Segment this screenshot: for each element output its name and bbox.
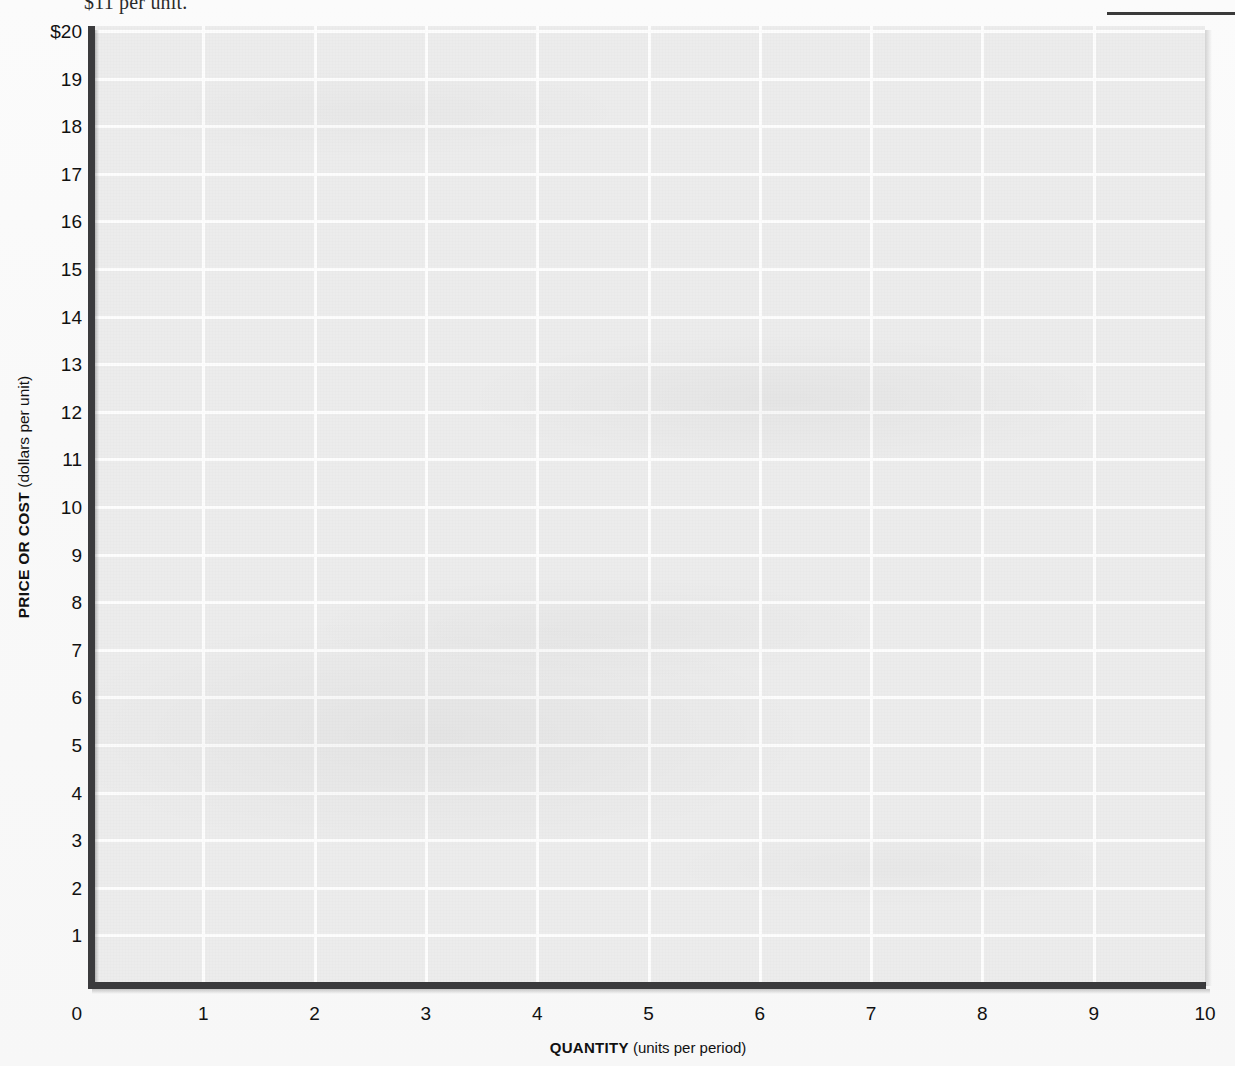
x-tick-label: 8: [952, 1004, 1012, 1023]
x-axis-title-light: (units per period): [633, 1039, 746, 1056]
y-axis-title-bold: PRICE OR COST: [15, 492, 32, 618]
x-tick-label: 1: [173, 1004, 233, 1023]
x-tick-label: 3: [396, 1004, 456, 1023]
x-tick-label: 6: [730, 1004, 790, 1023]
x-tick-label: 2: [285, 1004, 345, 1023]
x-tick-label: 9: [1064, 1004, 1124, 1023]
x-tick-label: 4: [507, 1004, 567, 1023]
y-axis-title: PRICE OR COST (dollars per unit): [15, 287, 33, 707]
x-axis-title: QUANTITY (units per period): [90, 1039, 1206, 1056]
x-axis-title-bold: QUANTITY: [550, 1039, 629, 1056]
x-tick-label: 5: [619, 1004, 679, 1023]
x-tick-label: 7: [841, 1004, 901, 1023]
x-tick-label: 10: [1175, 1004, 1235, 1023]
x-axis-tick-labels: 12345678910: [0, 0, 1235, 1066]
y-axis-title-light: (dollars per unit): [15, 376, 32, 488]
